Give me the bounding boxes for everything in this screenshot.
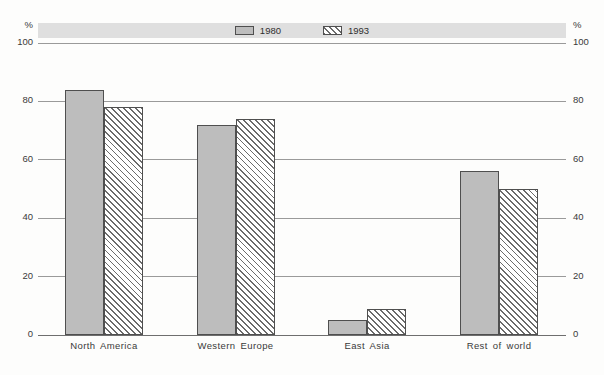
xlabel-east-asia: East Asia — [344, 340, 389, 351]
ytick-left-0: 0 — [0, 329, 33, 339]
ytick-right-60: 60 — [573, 154, 603, 164]
legend-swatch-1993-icon — [323, 26, 342, 35]
bar-western-europe-1980 — [197, 125, 236, 335]
legend-item-1993: 1993 — [323, 26, 369, 36]
legend-swatch-1980-icon — [235, 26, 254, 35]
legend-item-1980: 1980 — [235, 26, 281, 36]
ytick-left-60: 60 — [0, 154, 33, 164]
bar-east-asia-1993 — [367, 309, 406, 335]
bar-east-asia-1980 — [328, 320, 367, 335]
ytick-right-20: 20 — [573, 271, 603, 281]
ytick-left-100: 100 — [0, 37, 33, 47]
bar-north-america-1993 — [104, 107, 143, 335]
bar-western-europe-1993 — [236, 119, 275, 335]
gridline-80 — [38, 101, 566, 102]
ytick-right-80: 80 — [573, 95, 603, 105]
legend-label-1980: 1980 — [260, 26, 281, 36]
legend-label-1993: 1993 — [348, 26, 369, 36]
ytick-right-0: 0 — [573, 329, 603, 339]
xlabel-rest-of-world: Rest of world — [467, 340, 532, 351]
ytick-right-40: 40 — [573, 212, 603, 222]
legend-band: 19801993 — [38, 23, 566, 38]
bar-rest-of-world-1993 — [499, 189, 538, 335]
ytick-right-100: 100 — [573, 37, 603, 47]
bar-chart: % % 19801993 002020404060608080100100 No… — [0, 0, 604, 375]
xlabel-north-america: North America — [70, 340, 137, 351]
y-axis-unit-left: % — [0, 20, 33, 30]
ytick-left-20: 20 — [0, 271, 33, 281]
gridline-100 — [38, 43, 566, 44]
ytick-left-40: 40 — [0, 212, 33, 222]
xlabel-western-europe: Western Europe — [197, 340, 273, 351]
y-axis-unit-right: % — [573, 20, 601, 30]
ytick-left-80: 80 — [0, 95, 33, 105]
bar-north-america-1980 — [65, 90, 104, 335]
bar-rest-of-world-1980 — [460, 171, 499, 335]
